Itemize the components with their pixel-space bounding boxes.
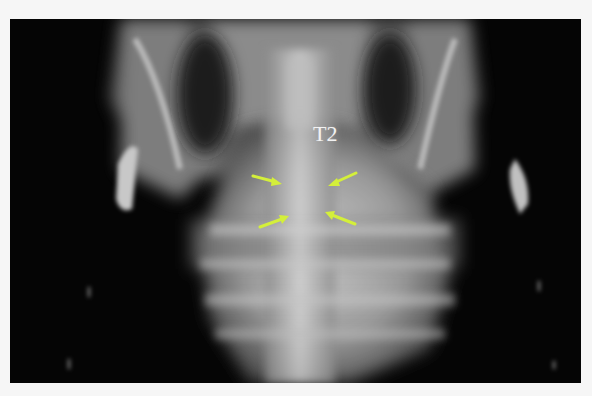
arrow-bottom-right-icon — [325, 211, 355, 224]
radiograph-frame: T2 — [10, 19, 581, 383]
arrow-top-right-icon — [328, 173, 356, 186]
annotation-arrows — [10, 19, 581, 383]
arrow-top-left-icon — [253, 176, 282, 186]
arrow-bottom-left-icon — [260, 215, 289, 227]
